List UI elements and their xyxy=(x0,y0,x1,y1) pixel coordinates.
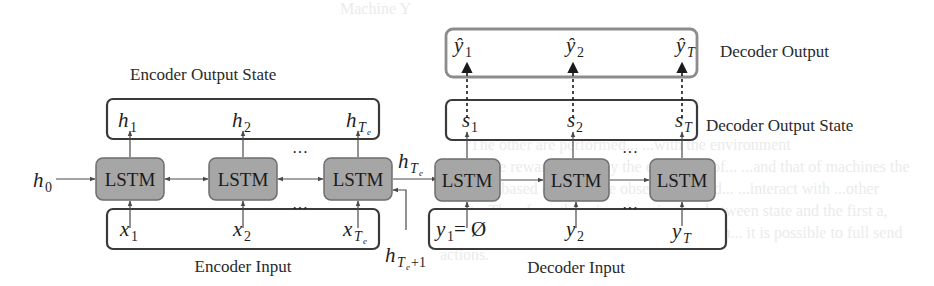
decoder-lstm-cell-1-label: LSTM xyxy=(442,170,493,191)
seq2seq-diagram: Encoder Output State h 1 h 2 h T e LSTM … xyxy=(0,0,934,286)
encoder-input-label: Encoder Input xyxy=(195,257,292,276)
svg-text:x: x xyxy=(232,217,243,241)
svg-text:+1: +1 xyxy=(411,255,426,270)
svg-text:s: s xyxy=(462,108,470,132)
svg-text:1: 1 xyxy=(131,229,138,244)
svg-text:1: 1 xyxy=(471,120,478,135)
svg-text:h: h xyxy=(118,108,129,132)
svg-text:2: 2 xyxy=(244,229,251,244)
decoder-output-ellipsis: ··· xyxy=(622,144,638,161)
svg-text:h: h xyxy=(33,168,44,192)
svg-text:y: y xyxy=(670,219,682,243)
encoder-output-ellipsis: ··· xyxy=(292,144,308,161)
svg-text:e: e xyxy=(367,127,371,137)
encoder-initial-state-h0: h 0 xyxy=(33,168,52,195)
decoder-lstm-cell-3-label: LSTM xyxy=(657,170,708,191)
svg-text:y: y xyxy=(434,217,446,241)
decoder-output-label: Decoder Output xyxy=(720,42,829,61)
encoder-output-state-label: Encoder Output State xyxy=(130,65,276,84)
svg-text:s: s xyxy=(567,108,575,132)
decoder-input-ellipsis: ··· xyxy=(622,200,638,217)
encoder-lstm-cell-3-label: LSTM xyxy=(333,169,384,190)
encoder-lstm-cell-1-label: LSTM xyxy=(105,169,156,190)
svg-text:h: h xyxy=(398,149,409,173)
decoder-output-state-label: Decoder Output State xyxy=(706,116,853,135)
svg-text:e: e xyxy=(406,262,410,272)
svg-text:h: h xyxy=(385,243,396,267)
svg-text:x: x xyxy=(342,217,353,241)
decoder-lstm-cell-2-label: LSTM xyxy=(551,170,602,191)
encoder-lstm-cell-2-label: LSTM xyxy=(218,169,269,190)
encoder-next-state-label: h T e +1 xyxy=(385,243,426,272)
svg-text:h: h xyxy=(346,108,357,132)
svg-text:= Ø: = Ø xyxy=(454,217,486,241)
svg-text:ŷ: ŷ xyxy=(564,33,576,57)
svg-text:h: h xyxy=(232,108,243,132)
svg-text:2: 2 xyxy=(577,229,584,244)
svg-text:1: 1 xyxy=(447,229,454,244)
svg-text:T: T xyxy=(354,229,363,244)
svg-text:e: e xyxy=(363,236,367,246)
decoder-input-y1: y 1 = Ø xyxy=(434,217,486,244)
svg-text:2: 2 xyxy=(577,45,584,60)
encoder-input-ellipsis: ··· xyxy=(292,200,308,217)
svg-text:ŷ: ŷ xyxy=(452,33,464,57)
svg-text:T: T xyxy=(684,120,693,135)
svg-text:T: T xyxy=(683,231,692,246)
svg-text:e: e xyxy=(419,168,423,178)
svg-text:1: 1 xyxy=(130,120,137,135)
svg-text:T: T xyxy=(410,161,419,176)
decoder-input-label: Decoder Input xyxy=(527,258,625,277)
svg-text:x: x xyxy=(119,217,130,241)
svg-text:T: T xyxy=(397,255,406,270)
svg-text:2: 2 xyxy=(576,120,583,135)
encoder-final-state-label: h T e xyxy=(398,149,423,178)
svg-text:0: 0 xyxy=(45,180,52,195)
svg-text:y: y xyxy=(564,217,576,241)
svg-text:1: 1 xyxy=(465,45,472,60)
svg-text:T: T xyxy=(358,120,367,135)
svg-text:T: T xyxy=(687,45,696,60)
next-state-feedback-arrow xyxy=(393,190,406,230)
svg-text:2: 2 xyxy=(244,120,251,135)
svg-text:ŷ: ŷ xyxy=(674,33,686,57)
